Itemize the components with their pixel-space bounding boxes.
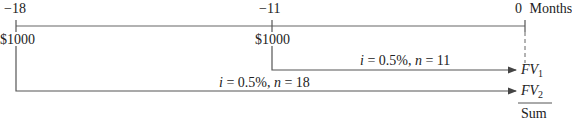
arrow1-label: i = 0.5%, n = 11 — [360, 54, 450, 68]
fv1-label: FV1 — [521, 63, 543, 79]
sum-label: Sum — [521, 107, 547, 121]
months-label: Months — [530, 1, 572, 16]
tick-label-minus-11: −11 — [259, 2, 280, 16]
cashflow-minus-11: $1000 — [255, 33, 290, 47]
tick-label-0: 0 Months — [515, 2, 572, 16]
cashflow-minus-18: $1000 — [0, 33, 35, 47]
arrow2-label: i = 0.5%, n = 18 — [219, 76, 310, 90]
fv2-label: FV2 — [521, 84, 543, 100]
zero-label: 0 — [515, 1, 522, 16]
tick-label-minus-18: −18 — [4, 2, 26, 16]
